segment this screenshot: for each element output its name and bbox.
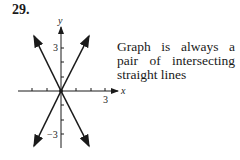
graph: y x 3 3 −3 xyxy=(0,0,130,160)
line-negative-slope-lower xyxy=(61,91,89,146)
y-tick-label-3: 3 xyxy=(53,42,58,53)
y-axis-label: y xyxy=(57,15,63,26)
x-axis-label: x xyxy=(120,85,126,96)
caption-line-3: straight lines xyxy=(117,68,235,82)
intersection-point xyxy=(59,89,63,93)
x-tick-label-3: 3 xyxy=(103,94,108,105)
caption: Graph is always a pair of intersecting s… xyxy=(117,40,235,82)
caption-line-1: Graph is always a xyxy=(117,40,235,54)
line-positive-slope xyxy=(61,36,89,91)
caption-line-2: pair of intersecting xyxy=(117,54,235,68)
y-tick-label-neg3: −3 xyxy=(47,129,58,140)
